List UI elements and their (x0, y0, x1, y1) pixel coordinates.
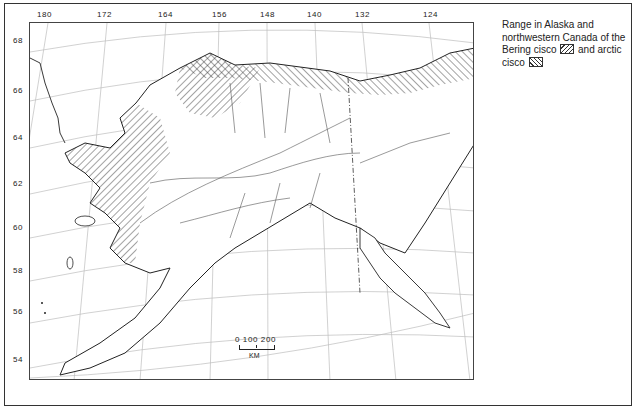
scale-line (239, 345, 275, 350)
figure-frame: 180 172 164 156 148 140 132 124 68 66 64… (4, 3, 632, 406)
map-panel (29, 22, 474, 380)
longitude-label: 124 (423, 10, 438, 19)
scale-bar: 0 100 200 KM (235, 335, 276, 359)
latitude-label: 62 (13, 179, 23, 188)
bering-cisco-swatch (560, 44, 574, 54)
longitude-label: 132 (355, 10, 370, 19)
latitude-label: 60 (13, 223, 23, 232)
latitude-label: 54 (13, 355, 23, 364)
island (67, 257, 73, 269)
longitude-label: 140 (307, 10, 322, 19)
island (41, 302, 43, 304)
latitude-label: 64 (13, 133, 23, 142)
longitude-label: 148 (260, 10, 275, 19)
scale-ticks: 0 100 200 (235, 335, 276, 344)
island (75, 216, 95, 226)
arctic-cisco-swatch (529, 57, 543, 67)
map-legend: Range in Alaska and northwestern Canada … (502, 19, 634, 69)
longitude-label: 156 (212, 10, 227, 19)
longitude-label: 164 (158, 10, 173, 19)
alaska-map (30, 23, 474, 380)
longitude-label: 180 (37, 10, 52, 19)
latitude-label: 66 (13, 86, 23, 95)
island (44, 312, 46, 314)
latitude-label: 56 (13, 307, 23, 316)
longitude-label: 172 (97, 10, 112, 19)
latitude-label: 58 (13, 266, 23, 275)
scale-unit: KM (249, 352, 276, 359)
latitude-label: 68 (13, 36, 23, 45)
